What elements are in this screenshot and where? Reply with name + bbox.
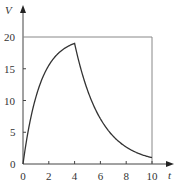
x-tick-label: 10 xyxy=(147,170,159,182)
data-series-line xyxy=(23,43,152,164)
y-tick-label: 10 xyxy=(4,95,16,107)
x-tick-label: 8 xyxy=(123,170,129,182)
x-tick-label: 4 xyxy=(72,170,78,182)
x-tick-label: 2 xyxy=(46,170,52,182)
y-tick-label: 5 xyxy=(10,126,16,138)
chart-canvas: 024681005101520 V t xyxy=(0,0,179,184)
x-axis-arrow-icon xyxy=(166,161,174,167)
y-axis-label: V xyxy=(5,4,13,16)
y-tick-label: 0 xyxy=(10,158,16,170)
x-axis-label: t xyxy=(168,169,172,181)
x-tick-label: 0 xyxy=(20,170,26,182)
y-tick-label: 20 xyxy=(4,31,16,43)
y-tick-label: 15 xyxy=(4,63,16,75)
x-tick-label: 6 xyxy=(98,170,104,182)
y-axis-arrow-icon xyxy=(20,5,26,13)
